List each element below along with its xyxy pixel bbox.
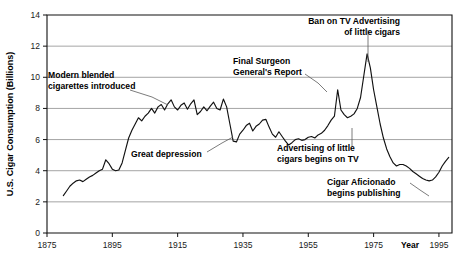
x-tick-label-1895: 1895	[103, 240, 122, 250]
y-axis-title: U.S. Cigar Consumption (Billions)	[5, 52, 15, 197]
x-tick-label-1975: 1975	[364, 240, 383, 250]
x-tick-label-1915: 1915	[168, 240, 187, 250]
y-tick-label-10: 10	[31, 72, 41, 82]
cigar-consumption-chart: 02468101214 1875189519151935195519751995…	[0, 0, 460, 258]
annotation-text-ban-on-tv-advertising-line-0: Ban on TV Advertising	[308, 16, 400, 26]
annotation-text-final-surgeon-generals-report-line-1: General's Report	[233, 67, 302, 77]
annotation-text-ban-on-tv-advertising-line-1: of little cigars	[344, 27, 400, 37]
x-axis-title-group: Year	[401, 240, 420, 250]
x-tick-label-1955: 1955	[299, 240, 318, 250]
y-tick-label-0: 0	[35, 228, 40, 238]
annotation-text-final-surgeon-generals-report-line-0: Final Surgeon	[233, 56, 290, 66]
y-axis-title-group: U.S. Cigar Consumption (Billions)	[5, 52, 15, 197]
y-tick-label-4: 4	[35, 166, 40, 176]
annotation-text-cigar-aficionado-begins-publishing-line-0: Cigar Aficionado	[327, 177, 395, 187]
x-tick-label-1935: 1935	[234, 240, 253, 250]
annotation-text-great-depression-line-0: Great depression	[131, 149, 202, 159]
annotation-text-advertising-little-cigars-tv-line-1: cigars begins on TV	[277, 154, 359, 164]
annotation-text-modern-blended-cigarettes-line-1: cigarettes introduced	[48, 81, 135, 91]
x-axis-ticks-group: 1875189519151935195519751995	[38, 233, 449, 250]
y-axis-ticks-group: 02468101214	[31, 10, 47, 238]
x-tick-label-1875: 1875	[38, 240, 57, 250]
annotation-text-cigar-aficionado-begins-publishing-line-1: begins publishing	[327, 188, 401, 198]
y-tick-label-2: 2	[35, 197, 40, 207]
y-tick-label-12: 12	[31, 41, 41, 51]
x-axis-title: Year	[401, 240, 420, 250]
y-tick-label-8: 8	[35, 103, 40, 113]
chart-canvas: 02468101214 1875189519151935195519751995…	[0, 0, 460, 258]
annotation-text-modern-blended-cigarettes-line-0: Modern blended	[48, 70, 114, 80]
y-tick-label-14: 14	[31, 10, 41, 20]
annotation-text-advertising-little-cigars-tv-line-0: Advertising of little	[277, 143, 355, 153]
x-tick-label-1995: 1995	[429, 240, 448, 250]
y-tick-label-6: 6	[35, 135, 40, 145]
